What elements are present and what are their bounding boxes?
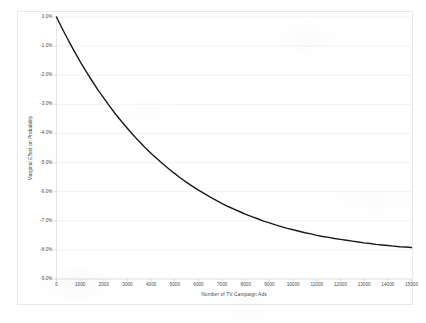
data-series-group bbox=[57, 17, 412, 248]
gridlines-group bbox=[57, 17, 412, 279]
plot-drawing-area bbox=[0, 0, 426, 323]
data-series-line bbox=[57, 17, 412, 248]
marginal-effect-chart: 0.0%-1.0%-2.0%-3.0%-4.0%-5.0%-6.0%-7.0%-… bbox=[0, 0, 426, 323]
axis-lines-group bbox=[57, 17, 412, 279]
